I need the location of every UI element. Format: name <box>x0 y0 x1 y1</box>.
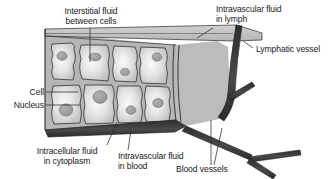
label-blood-vessels: Blood vessels <box>176 164 260 174</box>
nucleus-bottom-1 <box>59 104 73 116</box>
nucleus-top-1 <box>57 52 67 61</box>
cell-top-4 <box>140 47 168 84</box>
label-nucleus: Nucleus <box>0 100 44 110</box>
nucleus-bottom-3 <box>126 106 136 115</box>
blood-vessel-branch-right <box>249 150 301 162</box>
label-interstitial-fluid: Interstitial fluid between cells <box>56 6 126 26</box>
label-intravascular-fluid-lymph: Intravascular fluid in lymph <box>216 4 316 24</box>
label-lymphatic-vessel: Lymphatic vessel <box>256 44 331 54</box>
cell-top-3 <box>113 46 138 82</box>
nucleus-top-4 <box>152 53 162 61</box>
cell-top-2 <box>80 45 110 81</box>
nucleus-top-3 <box>120 68 129 76</box>
leader-lymphatic-vessel <box>243 41 253 48</box>
cell-row-bottom <box>52 85 171 124</box>
nucleus-bottom-4 <box>153 98 164 107</box>
cell-top-1 <box>51 43 75 80</box>
label-cell: Cell <box>0 87 44 97</box>
label-intracellular-fluid: Intracellular fluid in cytoplasm <box>24 146 110 166</box>
body-fluid-compartments-figure: Interstitial fluid between cells Intrava… <box>0 0 331 179</box>
nucleus-bottom-2 <box>93 91 107 104</box>
cell-bottom-3 <box>117 86 143 123</box>
nucleus-top-2 <box>89 53 101 61</box>
